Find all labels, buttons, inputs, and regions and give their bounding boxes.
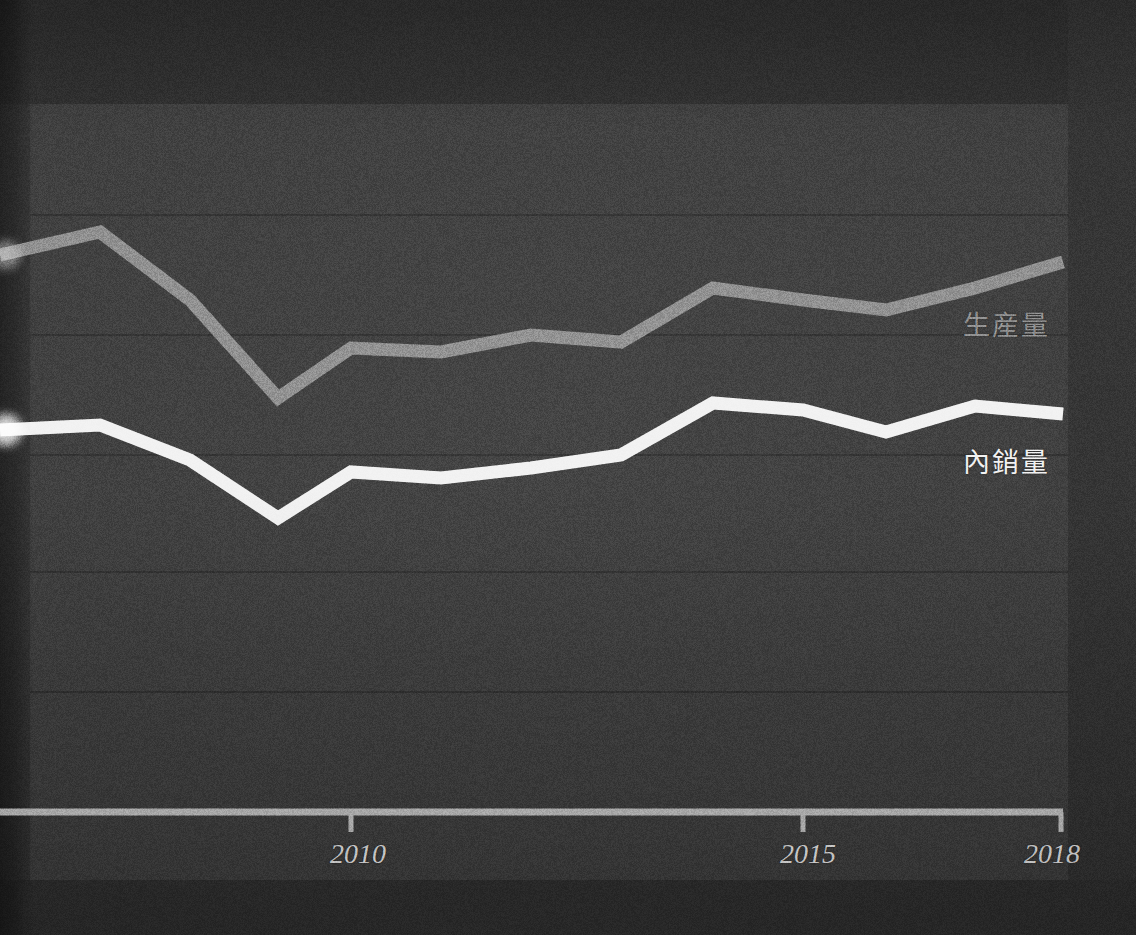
x-tick-label-2015: 2015 xyxy=(780,838,836,870)
x-tick-label-2018: 2018 xyxy=(1024,838,1080,870)
series-label-production: 生産量 xyxy=(963,304,1050,343)
series-production-line xyxy=(0,232,1063,398)
series-label-domestic: 內銷量 xyxy=(963,441,1050,480)
x-tick-label-2010: 2010 xyxy=(330,838,386,870)
series-domestic-line xyxy=(0,403,1063,518)
chart-screenshot: 生産量 內銷量 2010 2015 2018 xyxy=(0,0,1136,935)
